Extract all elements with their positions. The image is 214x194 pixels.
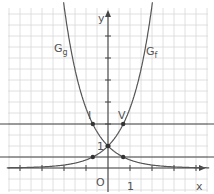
y-axis-label: y: [98, 12, 105, 25]
function-graph: y x O 1 1 I V Gg Gf: [0, 0, 214, 194]
curve-label-gg: Gg: [54, 42, 68, 57]
point-label-v: V: [118, 109, 126, 122]
x-axis-label: x: [196, 180, 203, 193]
graph-point: [91, 122, 95, 126]
graph-point: [106, 144, 110, 148]
point-label-i: I: [88, 109, 91, 122]
curve-gg: [64, 2, 210, 168]
horizontal-lines: [0, 124, 214, 157]
y-tick-one-label: 1: [97, 140, 104, 153]
graph-point: [121, 155, 125, 159]
axes: [8, 10, 206, 192]
graph-point: [121, 122, 125, 126]
labels: y x O 1 1 I V Gg Gf: [54, 12, 203, 193]
graph-point: [91, 155, 95, 159]
curve-gf: [7, 2, 153, 168]
x-tick-one-label: 1: [127, 180, 134, 193]
origin-label: O: [96, 176, 105, 189]
